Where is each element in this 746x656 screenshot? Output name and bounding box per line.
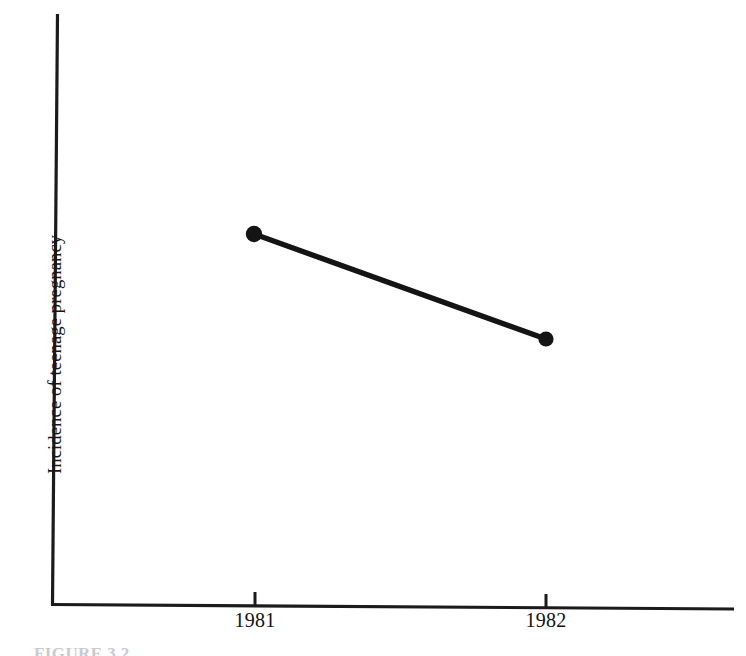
figure-canvas: Incidence of teenage pregnancy 1981 1982… — [0, 0, 746, 656]
y-axis-title: Incidence of teenage pregnancy — [44, 144, 66, 474]
x-tick-label-1981: 1981 — [215, 609, 295, 632]
x-tick-label-1982: 1982 — [506, 609, 586, 632]
data-point-marker-1981 — [246, 226, 262, 242]
line-chart-plot — [0, 0, 746, 656]
data-point-marker-1982 — [538, 331, 553, 346]
series-line-segment — [254, 234, 546, 339]
x-axis-line — [51, 605, 734, 610]
figure-caption-fragment: FIGURE 3.2 — [34, 645, 234, 656]
